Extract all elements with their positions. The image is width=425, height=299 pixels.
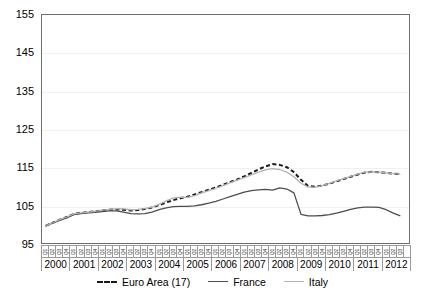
line-chart: 95105115125135145155 Q1Q2Q3Q4Q1Q2Q3Q4Q1Q…: [0, 0, 425, 299]
x-axis-quarter-cell: Q4: [205, 245, 212, 258]
x-axis-quarter-cell: Q3: [113, 245, 120, 258]
x-axis-quarter-cell: Q2: [106, 245, 113, 258]
x-axis-quarter-cell: Q3: [312, 245, 319, 258]
x-axis-quarter-label: Q3: [284, 248, 289, 255]
x-axis-year-label: 2009: [298, 258, 326, 271]
x-axis-quarter-cell: Q1: [184, 245, 191, 258]
legend: Euro Area (17)FranceItaly: [0, 272, 425, 292]
x-axis-quarter-cell: Q1: [42, 245, 49, 258]
x-axis-quarter-label: Q4: [121, 248, 126, 255]
x-axis-quarter-cell: Q1: [212, 245, 219, 258]
x-axis-year-label: 2006: [212, 258, 240, 271]
x-axis-quarter-label: Q1: [241, 248, 246, 255]
x-axis-quarter-label: Q4: [319, 248, 324, 255]
x-axis-quarter-cell: Q4: [177, 245, 184, 258]
x-axis-quarter-label: Q2: [163, 248, 168, 255]
x-axis-year-label: 2003: [127, 258, 155, 271]
x-axis-quarter-cell: Q4: [375, 245, 382, 258]
x-axis-quarter-cell: Q4: [319, 245, 326, 258]
x-axis-quarter-label: Q2: [135, 248, 140, 255]
x-axis-quarter-cell: Q3: [56, 245, 63, 258]
x-axis-quarter-cell: Q4: [234, 245, 241, 258]
x-axis-quarter-label: Q3: [142, 248, 147, 255]
x-axis-quarter-cell: Q2: [361, 245, 368, 258]
x-axis-quarter-cell: Q4: [262, 245, 269, 258]
x-axis: Q1Q2Q3Q4Q1Q2Q3Q4Q1Q2Q3Q4Q1Q2Q3Q4Q1Q2Q3Q4…: [41, 245, 410, 271]
legend-label: Euro Area (17): [122, 276, 190, 288]
x-axis-quarter-cell: Q3: [283, 245, 290, 258]
x-axis-quarter-label: Q3: [227, 248, 232, 255]
legend-item[interactable]: Euro Area (17): [97, 276, 190, 288]
x-axis-quarter-label: Q2: [106, 248, 111, 255]
x-axis-quarter-cell: Q2: [276, 245, 283, 258]
x-axis-quarter-cell: Q2: [163, 245, 170, 258]
x-axis-quarter-label: Q1: [184, 248, 189, 255]
x-axis-quarter-cell: Q3: [141, 245, 148, 258]
legend-swatch-icon: [97, 278, 117, 286]
x-axis-quarter-cell: Q3: [198, 245, 205, 258]
x-axis-quarter-cell: Q1: [326, 245, 333, 258]
x-axis-quarter-cell: Q3: [340, 245, 347, 258]
x-axis-quarter-cell: Q3: [85, 245, 92, 258]
x-axis-quarter-label: Q2: [248, 248, 253, 255]
x-axis-year-label: 2012: [383, 258, 411, 271]
x-axis-quarter-label: Q4: [262, 248, 267, 255]
x-axis-quarter-cell: [404, 245, 411, 258]
x-axis-quarter-cell: Q2: [134, 245, 141, 258]
x-axis-quarter-cell: Q4: [347, 245, 354, 258]
x-axis-quarter-cell: Q1: [70, 245, 77, 258]
x-axis-year-label: 2005: [184, 258, 212, 271]
x-axis-year-label: 2000: [42, 258, 70, 271]
x-axis-quarter-label: Q4: [376, 248, 381, 255]
x-axis-quarter-label: Q2: [277, 248, 282, 255]
x-axis-quarter-label: Q1: [156, 248, 161, 255]
x-axis-quarter-cell: Q3: [255, 245, 262, 258]
x-axis-quarter-label: Q2: [192, 248, 197, 255]
y-axis-tick-label: 95: [0, 239, 34, 250]
series-line-france: [46, 188, 401, 226]
x-axis-year-label: 2001: [70, 258, 98, 271]
y-axis: 95105115125135145155: [0, 0, 41, 299]
y-axis-tick-label: 135: [0, 86, 34, 97]
legend-item[interactable]: Italy: [284, 276, 328, 288]
series-line-italy: [46, 169, 401, 226]
x-axis-quarter-label: Q3: [85, 248, 90, 255]
x-axis-quarter-cell: Q3: [226, 245, 233, 258]
x-axis-quarter-cell: Q2: [304, 245, 311, 258]
x-axis-quarter-label: Q2: [362, 248, 367, 255]
legend-label: Italy: [309, 276, 328, 288]
x-axis-year-label: 2002: [99, 258, 127, 271]
x-axis-quarter-label: Q3: [369, 248, 374, 255]
x-axis-quarter-cell: Q3: [170, 245, 177, 258]
legend-label: France: [233, 276, 266, 288]
x-axis-quarter-label: Q1: [71, 248, 76, 255]
x-axis-year-label: 2008: [269, 258, 297, 271]
x-axis-quarter-cell: Q3: [368, 245, 375, 258]
x-axis-quarter-label: Q1: [43, 248, 48, 255]
x-axis-quarter-label: Q4: [348, 248, 353, 255]
x-axis-quarter-label: Q1: [383, 248, 388, 255]
y-axis-tick-label: 155: [0, 9, 34, 20]
x-axis-quarter-label: Q1: [298, 248, 303, 255]
x-axis-quarter-cell: Q1: [99, 245, 106, 258]
x-axis-quarter-cell: Q2: [390, 245, 397, 258]
x-axis-quarter-cell: Q4: [148, 245, 155, 258]
x-axis-quarter-label: Q4: [206, 248, 211, 255]
y-axis-tick-label: 115: [0, 162, 34, 173]
x-axis-quarter-cell: Q1: [354, 245, 361, 258]
legend-item[interactable]: France: [208, 276, 266, 288]
x-axis-quarter-label: Q3: [170, 248, 175, 255]
series-line-euro-area-17: [46, 164, 401, 226]
y-axis-tick-label: 105: [0, 201, 34, 212]
x-axis-quarter-cell: Q1: [297, 245, 304, 258]
plot-area: [41, 14, 410, 244]
x-axis-quarter-label: Q4: [291, 248, 296, 255]
x-axis-quarter-cell: Q4: [290, 245, 297, 258]
x-axis-quarter-cell: Q2: [248, 245, 255, 258]
x-axis-quarter-label: Q2: [305, 248, 310, 255]
x-axis-quarter-cell: Q1: [269, 245, 276, 258]
x-axis-quarter-label: Q4: [177, 248, 182, 255]
x-axis-quarter-cell: Q3: [397, 245, 404, 258]
x-axis-quarter-cell: Q1: [127, 245, 134, 258]
x-axis-quarter-label: Q1: [128, 248, 133, 255]
